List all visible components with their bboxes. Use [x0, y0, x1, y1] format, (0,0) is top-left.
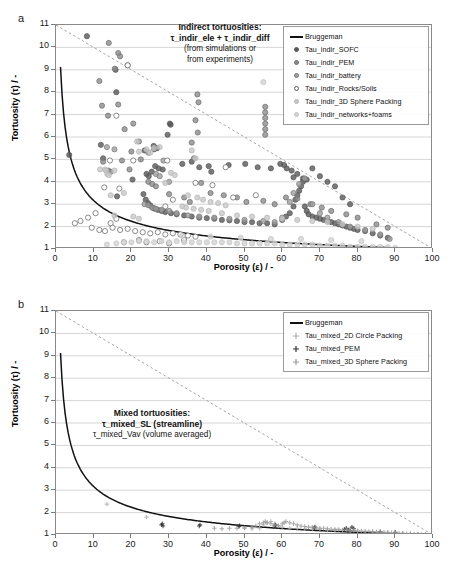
- legend-item-label: Bruggeman: [304, 318, 343, 327]
- annotation-line-2: (from simulations or: [140, 44, 300, 55]
- y-tick-mark: [51, 512, 55, 513]
- x-tick-mark: [93, 248, 94, 252]
- panel-a-x-axis-title: Porosity (ε) / -: [55, 262, 432, 272]
- x-tick-mark: [319, 248, 320, 252]
- circle-marker-icon: [294, 99, 299, 104]
- y-tick-8: 8: [27, 85, 49, 95]
- legend-item-tau-indir-battery[interactable]: Tau_indir_battery: [288, 69, 424, 82]
- y-tick-mark: [51, 422, 55, 423]
- legend-item-tau-indir-networks-foams[interactable]: Tau_indir_networks+foams: [288, 108, 424, 121]
- series-tau-mixed-3d-sphere-packing: [212, 519, 428, 534]
- panel-b-legend: BruggemanTau_mixed_2D Circle PackingTau_…: [283, 312, 429, 372]
- x-tick-mark: [55, 248, 56, 252]
- annotation-line-2: τ_mixed_Vav (volume averaged): [62, 430, 242, 441]
- y-tick-2: 2: [27, 220, 49, 230]
- panel-b-label: b: [18, 298, 24, 310]
- legend-circle-marker-icon: [288, 112, 304, 117]
- y-tick-mark: [51, 444, 55, 445]
- y-tick-mark: [51, 489, 55, 490]
- y-tick-mark: [51, 136, 55, 137]
- legend-plus-marker-icon: [288, 345, 304, 353]
- x-tick-mark: [206, 248, 207, 252]
- y-tick-4: 4: [27, 461, 49, 471]
- legend-item-tau-mixed-2d-circle-packing[interactable]: Tau_mixed_2D Circle Packing: [288, 329, 424, 342]
- y-tick-mark: [51, 332, 55, 333]
- y-tick-mark: [51, 467, 55, 468]
- x-tick-mark: [281, 248, 282, 252]
- y-tick-2: 2: [27, 506, 49, 516]
- x-tick-mark: [168, 248, 169, 252]
- legend-line-swatch-icon: [288, 322, 304, 324]
- y-tick-mark: [51, 158, 55, 159]
- y-tick-mark: [51, 377, 55, 378]
- circle-marker-icon: [294, 86, 299, 91]
- legend-plus-marker-icon: [288, 358, 304, 366]
- y-tick-mark: [51, 203, 55, 204]
- y-tick-6: 6: [27, 130, 49, 140]
- line-swatch-icon: [290, 322, 303, 324]
- y-tick-5: 5: [27, 152, 49, 162]
- annotation-line-1: τ_mixed_SL (streamline): [62, 419, 242, 430]
- x-tick-mark: [168, 534, 169, 538]
- annotation-line-1: τ_indir_ele + τ_indir_diff: [140, 33, 300, 44]
- legend-item-label: Tau_mixed_2D Circle Packing: [304, 331, 402, 340]
- y-tick-9: 9: [27, 63, 49, 73]
- y-tick-5: 5: [27, 438, 49, 448]
- plus-marker-icon: [292, 345, 300, 353]
- y-tick-4: 4: [27, 175, 49, 185]
- panel-a-annotation: Indirect tortuosities:τ_indir_ele + τ_in…: [140, 22, 300, 65]
- x-tick-mark: [93, 534, 94, 538]
- x-tick-mark: [244, 534, 245, 538]
- legend-item-label: Tau_indir_networks+foams: [304, 110, 392, 119]
- x-tick-mark: [55, 534, 56, 538]
- y-tick-mark: [51, 24, 55, 25]
- legend-item-bruggeman[interactable]: Bruggeman: [288, 316, 424, 329]
- y-tick-mark: [51, 114, 55, 115]
- y-tick-1: 1: [27, 242, 49, 252]
- legend-item-tau-indir-3d-sphere-packing[interactable]: Tau_indir_3D Sphere Packing: [288, 95, 424, 108]
- y-tick-3: 3: [27, 483, 49, 493]
- annotation-line-3: from experiments): [140, 55, 300, 66]
- y-tick-10: 10: [27, 40, 49, 50]
- y-tick-mark: [51, 400, 55, 401]
- legend-item-tau-mixed-pem[interactable]: Tau_mixed_PEM: [288, 342, 424, 355]
- legend-circle-marker-icon: [288, 86, 304, 91]
- x-tick-mark: [432, 534, 433, 538]
- figure-root: a Tortuosity (τ) / - 1234567891011 01020…: [0, 0, 454, 572]
- circle-marker-icon: [294, 112, 299, 117]
- panel-a: a Tortuosity (τ) / - 1234567891011 01020…: [0, 0, 454, 286]
- y-tick-3: 3: [27, 197, 49, 207]
- plus-marker-icon: [292, 358, 300, 366]
- legend-item-label: Tau_indir_battery: [304, 71, 361, 80]
- x-tick-mark: [357, 248, 358, 252]
- y-tick-mark: [51, 181, 55, 182]
- y-tick-6: 6: [27, 416, 49, 426]
- panel-a-legend: BruggemanTau_indir_SOFCTau_indir_PEMTau_…: [283, 26, 429, 125]
- legend-item-label: Tau_indir_SOFC: [304, 45, 359, 54]
- plus-marker-icon: [292, 332, 300, 340]
- x-tick-mark: [130, 248, 131, 252]
- y-tick-7: 7: [27, 108, 49, 118]
- y-tick-7: 7: [27, 394, 49, 404]
- series-tau-mixed-2d-circle-packing: [105, 502, 428, 534]
- legend-item-tau-indir-sofc[interactable]: Tau_indir_SOFC: [288, 43, 424, 56]
- y-tick-mark: [51, 91, 55, 92]
- x-tick-mark: [432, 248, 433, 252]
- y-tick-mark: [51, 46, 55, 47]
- legend-item-tau-indir-rocks-soils[interactable]: Tau_indir_Rocks/Soils: [288, 82, 424, 95]
- y-tick-10: 10: [27, 326, 49, 336]
- panel-b-y-axis-title: Tortuosity (τ) / -: [10, 361, 20, 427]
- legend-item-tau-mixed-3d-sphere-packing[interactable]: Tau_mixed_3D Sphere Packing: [288, 355, 424, 368]
- annotation-line-0: Indirect tortuosities:: [140, 22, 300, 33]
- panel-b: b Tortuosity (τ) / - 1234567891011 01020…: [0, 286, 454, 572]
- legend-item-label: Tau_indir_3D Sphere Packing: [304, 97, 401, 106]
- y-tick-8: 8: [27, 371, 49, 381]
- circle-marker-icon: [294, 73, 299, 78]
- legend-item-tau-indir-pem[interactable]: Tau_indir_PEM: [288, 56, 424, 69]
- y-tick-mark: [51, 355, 55, 356]
- legend-item-bruggeman[interactable]: Bruggeman: [288, 30, 424, 43]
- legend-item-label: Tau_mixed_3D Sphere Packing: [304, 357, 407, 366]
- x-tick-mark: [130, 534, 131, 538]
- y-tick-mark: [51, 69, 55, 70]
- x-tick-mark: [394, 534, 395, 538]
